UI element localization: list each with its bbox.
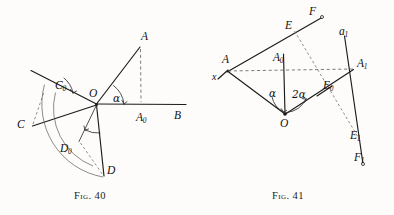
point-label-A: A xyxy=(141,31,148,43)
endpoint-ring-F xyxy=(321,16,324,19)
angle-label-alpha: α xyxy=(113,93,120,104)
point-label-A0: A0 xyxy=(273,52,284,64)
point-label-F1: F1 xyxy=(354,152,365,164)
line-x-tail xyxy=(218,70,228,79)
arc-angle-2alpha xyxy=(287,99,307,113)
point-label-A1: A1 xyxy=(357,58,368,70)
figure-40-caption: Fig. 40 xyxy=(74,190,106,201)
figure-41-drawing xyxy=(197,0,394,215)
angle-label-alpha: α xyxy=(269,88,276,99)
point-label-E0: E0 xyxy=(323,80,334,92)
figure-41-caption: Fig. 41 xyxy=(272,190,304,201)
angle-label-two-alpha: 2α xyxy=(292,89,306,100)
point-label-E: E xyxy=(285,20,292,32)
point-label-O: O xyxy=(89,88,97,100)
point-label-D: D xyxy=(107,165,115,177)
line-AO xyxy=(228,72,285,115)
axis-label-a1: a1 xyxy=(339,26,348,38)
point-label-A: A xyxy=(222,54,229,66)
line-A-E-F xyxy=(227,18,322,73)
figure-40-drawing xyxy=(0,0,197,215)
line-axis-a1 xyxy=(345,36,364,164)
dashed-D0-to-D xyxy=(81,143,104,175)
point-label-B: B xyxy=(174,110,181,122)
line-OB xyxy=(96,104,186,105)
vertex-dot-O xyxy=(283,112,287,116)
arc-angle-lower xyxy=(85,130,100,133)
point-label-C: C xyxy=(17,119,25,131)
arrow-upper-left xyxy=(71,90,77,94)
dashed-A-to-A1 xyxy=(228,69,353,71)
point-label-C0: C0 xyxy=(55,80,66,92)
point-label-F: F xyxy=(309,6,316,18)
figure-41: A A0 A1 x E F a1 E0 E1 F1 O xyxy=(197,0,394,215)
dashed-A-to-A0 xyxy=(141,49,142,102)
point-label-D0: D0 xyxy=(60,143,72,155)
axis-label-x: x xyxy=(212,72,216,82)
arrow-alpha xyxy=(122,101,127,105)
point-label-A0: A0 xyxy=(136,112,147,124)
point-label-E1: E1 xyxy=(350,130,361,142)
line-OD xyxy=(97,105,105,176)
figure-40: A A0 B O α C C0 D D0 Fig. 40 xyxy=(0,0,197,215)
vertex-dot-O xyxy=(95,103,98,106)
figure-page: A A0 B O α C C0 D D0 Fig. 40 xyxy=(0,0,394,215)
point-label-O: O xyxy=(280,118,288,130)
